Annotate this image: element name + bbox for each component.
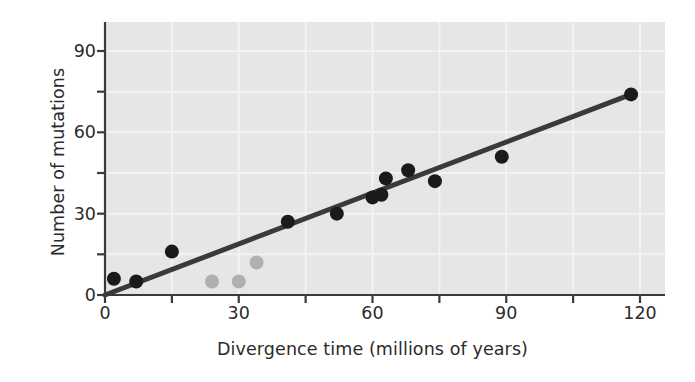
data-point [250, 255, 264, 269]
data-point [129, 274, 143, 288]
data-point [205, 274, 219, 288]
data-point [165, 245, 179, 259]
data-point [428, 174, 442, 188]
data-point [330, 207, 344, 221]
data-point [107, 272, 121, 286]
data-point [624, 87, 638, 101]
data-point [374, 188, 388, 202]
data-point [495, 150, 509, 164]
scatter-chart-figure: Number of mutations Divergence time (mil… [0, 0, 695, 382]
data-point [401, 163, 415, 177]
plot-area [0, 0, 695, 382]
data-point [379, 171, 393, 185]
data-point [232, 274, 246, 288]
data-point [281, 215, 295, 229]
